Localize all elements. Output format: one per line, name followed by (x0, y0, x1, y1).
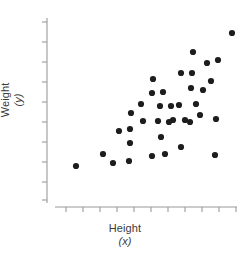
data-point (150, 76, 156, 82)
data-point (116, 128, 122, 134)
data-point (178, 70, 184, 76)
data-point (149, 90, 155, 96)
data-point (128, 110, 134, 116)
data-point (212, 152, 218, 158)
data-point (204, 60, 210, 66)
y-axis-label: Weight (y) (0, 50, 24, 150)
x-axis-variable-symbol: (x) (0, 235, 250, 248)
axes-group (42, 18, 237, 212)
x-axis-tick-marks (66, 207, 236, 212)
data-point (213, 116, 219, 122)
data-point (140, 118, 146, 124)
data-point (73, 163, 79, 169)
scatter-plot-canvas (0, 0, 250, 255)
data-point (170, 117, 176, 123)
data-point (127, 126, 133, 132)
data-point (178, 144, 184, 150)
y-axis-label-rotated-wrapper: Weight (y) (0, 50, 29, 150)
data-point (100, 151, 106, 157)
data-point (160, 89, 166, 95)
data-point (162, 151, 168, 157)
data-point (193, 101, 199, 107)
data-point (176, 102, 182, 108)
data-point (189, 70, 195, 76)
data-point (208, 78, 214, 84)
data-point (190, 49, 196, 55)
data-point (127, 140, 133, 146)
data-point (110, 160, 116, 166)
data-point (138, 101, 144, 107)
data-point (187, 119, 193, 125)
data-point (155, 118, 161, 124)
data-point (157, 103, 163, 109)
x-axis-label: Height (x) (0, 222, 250, 247)
y-axis-tick-marks (42, 22, 47, 200)
y-axis-variable-symbol: (y) (12, 50, 25, 150)
data-point (168, 103, 174, 109)
data-point (126, 158, 132, 164)
data-point (197, 112, 203, 118)
scatter-plot-figure: Height (x) Weight (y) (0, 0, 250, 255)
x-axis-label-text: Height (0, 222, 250, 235)
data-points-group (73, 30, 235, 169)
data-point (200, 87, 206, 93)
data-point (229, 30, 235, 36)
y-axis-label-text: Weight (0, 50, 12, 150)
data-point (158, 134, 164, 140)
data-point (188, 85, 194, 91)
data-point (215, 57, 221, 63)
data-point (149, 153, 155, 159)
